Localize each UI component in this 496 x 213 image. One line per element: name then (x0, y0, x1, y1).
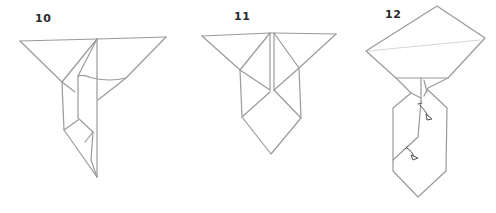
origami-diagram (0, 0, 496, 213)
step-11-figure (202, 33, 336, 154)
fold-arrow-lower (405, 146, 418, 160)
step-10-figure (20, 37, 166, 177)
step-12-figure (366, 6, 485, 197)
